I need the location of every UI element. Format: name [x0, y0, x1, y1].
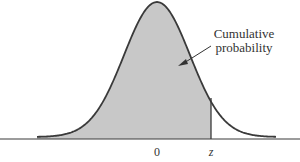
annotation-line1: Cumulative — [214, 26, 275, 41]
z-label: z — [208, 145, 214, 159]
cumulative-area — [37, 2, 211, 139]
annotation-line2: probability — [215, 40, 273, 55]
normal-curve-diagram: Cumulative probability 0 z — [0, 0, 300, 162]
mean-label: 0 — [154, 145, 160, 159]
